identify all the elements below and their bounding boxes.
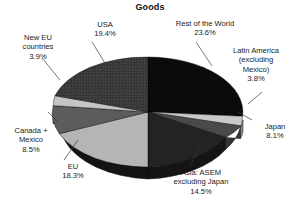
leader-rest-of-world [196,42,212,66]
pie-chart-figure: Goods [0,0,300,208]
slice-label-japan: Japan 8.1% [252,122,298,141]
slice-label-new-eu-countries: New EU countries 3.9% [2,33,74,61]
slice-label-canada-mexico: Canada + Mexico 8.5% [0,126,62,154]
slice-label-eu: EU 18.3% [42,162,104,181]
slice-label-latin-america: Latin America (excluding Mexico) 3.8% [214,46,298,84]
leader-latin-america [248,92,262,104]
slice-label-rest-of-the-world: Rest of the World 23.6% [152,19,258,38]
slice-label-asia-asem: Asia: ASEM excluding Japan 14.5% [148,168,254,196]
leader-new-eu [42,58,60,80]
slice-label-usa: USA 19.4% [72,20,138,39]
